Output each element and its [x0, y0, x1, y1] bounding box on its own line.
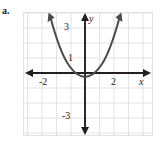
problem-label: a. — [2, 6, 10, 16]
y-tick-label-1: 1 — [68, 53, 73, 63]
graph-svg — [23, 12, 153, 136]
x-axis-name-label: x — [139, 77, 143, 87]
plot-background — [23, 12, 153, 136]
coordinate-plane — [23, 12, 153, 136]
graph-figure: a. — [0, 0, 157, 144]
y-tick-label-3: 3 — [64, 22, 69, 32]
y-tick-label-neg3: -3 — [62, 111, 70, 121]
x-tick-label-neg2: -2 — [39, 77, 47, 87]
y-axis-name-label: y — [89, 14, 93, 24]
x-tick-label-2: 2 — [111, 77, 116, 87]
